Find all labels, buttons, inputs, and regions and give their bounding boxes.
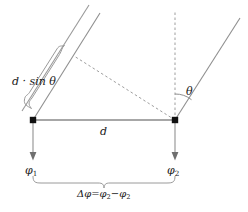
angle-label: θ: [186, 86, 193, 97]
phase-difference-lhs: Δφ=φ: [77, 188, 107, 199]
separation-text: d: [100, 125, 107, 138]
path-difference-label: d · sin θ: [12, 76, 56, 87]
path-difference-figure: d · sin θ d θ φ1 φ2 Δφ=φ2−φ2: [0, 0, 248, 212]
phase-left-symbol: φ: [25, 164, 33, 177]
phase-left-subscript: 1: [33, 169, 38, 178]
phase-right-label: φ2: [167, 165, 179, 177]
phase-difference-subscript-2: 2: [126, 193, 130, 201]
diagram-canvas: [0, 0, 248, 212]
separation-label: d: [100, 126, 107, 137]
ray-right-line: [175, 18, 240, 120]
phase-right-symbol: φ: [167, 164, 175, 177]
phase-difference-label: Δφ=φ2−φ2: [77, 189, 130, 200]
angle-text: θ: [186, 85, 193, 98]
path-difference-text: d · sin θ: [12, 75, 56, 88]
phase-arrow-left-head: [30, 152, 37, 161]
phase-left-label: φ1: [25, 165, 37, 177]
emitter-marker-right: [172, 117, 178, 123]
phase-arrow-right-head: [172, 152, 179, 161]
phase-difference-mid: −φ: [111, 188, 126, 199]
phase-right-subscript: 2: [175, 169, 180, 178]
emitter-marker-left: [30, 117, 36, 123]
ray-left-parallel-line: [22, 5, 89, 111]
phase-difference-brace: [33, 176, 175, 188]
wavefront-dashed-line: [74, 56, 175, 120]
